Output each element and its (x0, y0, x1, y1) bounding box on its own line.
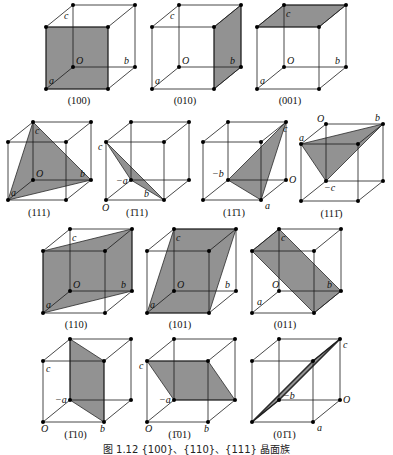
vertex-dot (206, 359, 210, 363)
vertex-dot (234, 289, 238, 293)
vertex-dot (44, 87, 48, 91)
plane-label: (110) (65, 319, 88, 331)
cube-edge (164, 180, 189, 200)
vertex-dot (71, 65, 75, 69)
vertex-dot (177, 3, 181, 7)
cube-edge (66, 122, 91, 142)
axis-label: c (176, 232, 181, 243)
vertex-dot (68, 227, 72, 231)
axis-label: b (144, 188, 149, 199)
vertex-dot (338, 337, 342, 341)
axis-label: c (98, 141, 103, 152)
vertex-dot (317, 25, 321, 29)
plane-111-face (8, 122, 91, 200)
figure-caption: 图 1.12 {100}、{110}、{111} 晶面族 (0, 441, 393, 455)
axis-label: c (139, 360, 144, 371)
vertex-dot (311, 359, 315, 363)
cube-1-11: c−bOa(11̄1) (201, 120, 296, 219)
vertex-dot (339, 227, 343, 231)
vertex-dot (41, 249, 45, 253)
axis-label: −a (55, 394, 67, 405)
vertex-dot (381, 122, 385, 126)
vertex-dot (150, 25, 154, 29)
cube-011: cOba(011) (250, 227, 343, 331)
axis-label: b (327, 279, 332, 290)
cube-edge (106, 122, 131, 142)
crystal-planes-diagram: cOba(100)cOba(010)cOba(001)cOba(111)c−ab… (0, 0, 393, 455)
cube-edge (252, 400, 279, 422)
cube-edge (104, 339, 131, 361)
cube-010: cOba(010) (150, 3, 243, 107)
vertex-dot (282, 65, 286, 69)
plane-101-face (147, 229, 236, 313)
cube-edge (208, 400, 235, 422)
cube-111: cOba(111) (6, 120, 93, 219)
axis-label: c (64, 10, 69, 21)
axis-label: O (73, 279, 80, 290)
vertex-dot (41, 311, 45, 315)
cube-edge (319, 67, 346, 89)
axis-label: b (100, 423, 105, 434)
vertex-dot (129, 398, 133, 402)
plane-label: (111) (28, 207, 50, 219)
vertex-dot (277, 337, 281, 341)
vertex-dot (277, 227, 281, 231)
vertex-dot (311, 420, 315, 424)
axis-label: c (343, 339, 348, 350)
vertex-dot (233, 337, 237, 341)
plane-0-11-face (252, 339, 340, 422)
cube-0-11: c−bOa(01̄1) (250, 337, 350, 441)
vertex-dot (277, 398, 281, 402)
vertex-dot (239, 3, 243, 7)
axis-label: O (182, 55, 189, 66)
vertex-dot (312, 249, 316, 253)
vertex-dot (64, 198, 68, 202)
vertex-dot (89, 120, 93, 124)
vertex-dot (129, 178, 133, 182)
cube--101: c−abO(1̄01) (139, 337, 237, 441)
axis-label: c (46, 363, 51, 374)
plane-010-face (214, 5, 241, 89)
plane-label: (01̄1) (273, 429, 296, 441)
cube-edge (152, 5, 179, 27)
vertex-dot (31, 120, 35, 124)
axis-label: a (49, 75, 54, 86)
axis-label: b (335, 55, 340, 66)
axis-label: −a (159, 394, 171, 405)
cube--110: c−abO(1̄10) (41, 337, 133, 441)
vertex-dot (102, 359, 106, 363)
vertex-dot (103, 311, 107, 315)
cube-001: cOba(001) (255, 3, 348, 107)
vertex-dot (130, 227, 134, 231)
plane-label: (11̄1) (223, 207, 245, 219)
vertex-dot (172, 227, 176, 231)
axis-label: O (272, 279, 279, 290)
vertex-dot (162, 140, 166, 144)
vertex-dot (201, 198, 205, 202)
vertex-dot (133, 3, 137, 7)
vertex-dot (255, 25, 259, 29)
vertex-dot (259, 140, 263, 144)
vertex-dot (226, 178, 230, 182)
axis-label: a (299, 132, 304, 143)
axis-label: a (260, 75, 265, 86)
plane-label: (011) (274, 319, 297, 331)
vertex-dot (299, 199, 303, 203)
cube-edge (108, 67, 135, 89)
axis-label: O (36, 168, 43, 179)
vertex-dot (212, 87, 216, 91)
axis-label: c (72, 232, 77, 243)
vertex-dot (312, 311, 316, 315)
cube-101: cOba(101) (145, 227, 238, 331)
vertex-dot (250, 311, 254, 315)
vertex-dot (150, 87, 154, 91)
axis-label: a (11, 187, 16, 198)
axis-label: O (102, 202, 109, 213)
vertex-dot (250, 420, 254, 424)
cube-edge (252, 339, 279, 361)
vertex-dot (106, 87, 110, 91)
vertex-dot (177, 65, 181, 69)
axis-label: O (41, 423, 48, 434)
plane-1-11-face (228, 122, 286, 200)
axis-label: b (375, 112, 380, 123)
